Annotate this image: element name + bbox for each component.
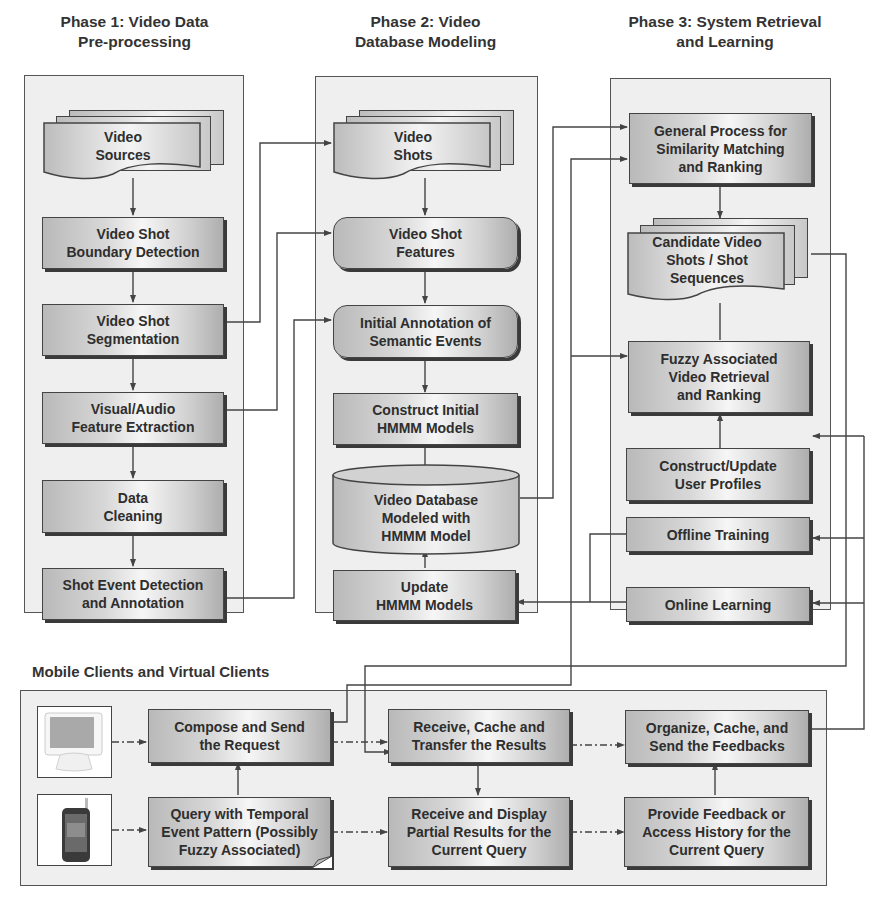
feature-extraction-line1: Visual/Audio [91, 400, 176, 418]
video-database-line2: Modeled with [331, 509, 521, 527]
update-hmmm-node: Update HMMM Models [333, 570, 516, 621]
mobile-device-box [37, 794, 112, 866]
feature-extraction-node: Visual/Audio Feature Extraction [42, 392, 224, 444]
shot-features-node: Video Shot Features [333, 217, 518, 269]
boundary-detection-line1: Video Shot [97, 225, 170, 243]
shot-segmentation-line2: Segmentation [87, 330, 180, 348]
provide-feedback-line2: Access History for the [642, 823, 791, 841]
shot-features-line2: Features [396, 243, 454, 261]
event-detection-node: Shot Event Detection and Annotation [42, 568, 224, 620]
update-hmmm-line1: Update [401, 578, 448, 596]
receive-display-line2: Partial Results for the [407, 823, 552, 841]
video-shots-line1: Video [394, 128, 432, 146]
boundary-detection-node: Video Shot Boundary Detection [42, 217, 224, 269]
video-sources-line1: Video [104, 128, 142, 146]
video-shots-node: Video Shots [333, 110, 518, 182]
compose-request-line2: the Request [199, 736, 279, 754]
query-pattern-node: Query with Temporal Event Pattern (Possi… [148, 797, 331, 867]
video-database-line3: HMMM Model [331, 527, 521, 545]
data-cleaning-line2: Cleaning [103, 507, 162, 525]
user-profiles-line1: Construct/Update [659, 457, 776, 475]
folded-corner-icon [312, 856, 332, 868]
provide-feedback-line1: Provide Feedback or [648, 805, 786, 823]
candidate-shots-line3: Sequences [670, 269, 744, 287]
update-hmmm-line2: HMMM Models [376, 596, 473, 614]
fuzzy-retrieval-node: Fuzzy Associated Video Retrieval and Ran… [628, 341, 810, 413]
organize-feedback-node: Organize, Cache, and Send the Feedbacks [625, 710, 809, 764]
organize-feedback-line2: Send the Feedbacks [649, 737, 784, 755]
offline-training-node: Offline Training [626, 517, 810, 552]
online-learning-node: Online Learning [626, 587, 810, 622]
query-pattern-line1: Query with Temporal [170, 805, 308, 823]
video-database-line1: Video Database [331, 491, 521, 509]
offline-training-label: Offline Training [667, 526, 770, 544]
mobile-phone-icon [38, 795, 110, 863]
shot-features-line1: Video Shot [389, 225, 462, 243]
desktop-device-box [37, 706, 112, 778]
initial-annotation-line1: Initial Annotation of [360, 314, 491, 332]
video-sources-node: Video Sources [43, 110, 228, 182]
fuzzy-retrieval-line2: Video Retrieval [669, 368, 770, 386]
shot-segmentation-line1: Video Shot [97, 312, 170, 330]
candidate-shots-line1: Candidate Video [652, 233, 761, 251]
video-shots-line2: Shots [394, 146, 433, 164]
construct-hmmm-node: Construct Initial HMMM Models [333, 393, 518, 445]
shot-segmentation-node: Video Shot Segmentation [42, 304, 224, 356]
candidate-shots-node: Candidate Video Shots / Shot Sequences [627, 218, 817, 308]
compose-request-node: Compose and Send the Request [148, 709, 331, 763]
video-database-node: Video Database Modeled with HMMM Model [331, 463, 521, 555]
similarity-matching-node: General Process for Similarity Matching … [629, 113, 812, 184]
feature-extraction-line2: Feature Extraction [72, 418, 195, 436]
user-profiles-line2: User Profiles [675, 475, 761, 493]
receive-display-line1: Receive and Display [411, 805, 546, 823]
receive-display-node: Receive and Display Partial Results for … [388, 797, 570, 867]
receive-cache-line2: Transfer the Results [412, 736, 547, 754]
event-detection-line2: and Annotation [82, 594, 184, 612]
fuzzy-retrieval-line1: Fuzzy Associated [661, 350, 778, 368]
receive-cache-node: Receive, Cache and Transfer the Results [388, 709, 570, 763]
similarity-matching-line1: General Process for [654, 122, 787, 140]
data-cleaning-node: Data Cleaning [42, 480, 224, 533]
event-detection-line1: Shot Event Detection [63, 576, 204, 594]
provide-feedback-node: Provide Feedback or Access History for t… [624, 797, 809, 867]
compose-request-line1: Compose and Send [174, 718, 305, 736]
organize-feedback-line1: Organize, Cache, and [646, 719, 788, 737]
boundary-detection-line2: Boundary Detection [66, 243, 199, 261]
initial-annotation-line2: Semantic Events [369, 332, 481, 350]
construct-hmmm-line2: HMMM Models [377, 419, 474, 437]
data-cleaning-line1: Data [118, 489, 148, 507]
provide-feedback-line3: Current Query [669, 841, 764, 859]
desktop-monitor-icon [38, 707, 110, 775]
initial-annotation-node: Initial Annotation of Semantic Events [333, 305, 518, 358]
similarity-matching-line3: and Ranking [678, 158, 762, 176]
online-learning-label: Online Learning [665, 596, 772, 614]
query-pattern-line2: Event Pattern (Possibly [161, 823, 317, 841]
construct-hmmm-line1: Construct Initial [372, 401, 479, 419]
user-profiles-node: Construct/Update User Profiles [626, 448, 810, 501]
similarity-matching-line2: Similarity Matching [656, 140, 784, 158]
fuzzy-retrieval-line3: and Ranking [677, 386, 761, 404]
video-sources-line2: Sources [95, 146, 150, 164]
candidate-shots-line2: Shots / Shot [666, 251, 748, 269]
query-pattern-line3: Fuzzy Associated) [179, 841, 301, 859]
receive-display-line3: Current Query [432, 841, 527, 859]
receive-cache-line1: Receive, Cache and [413, 718, 545, 736]
